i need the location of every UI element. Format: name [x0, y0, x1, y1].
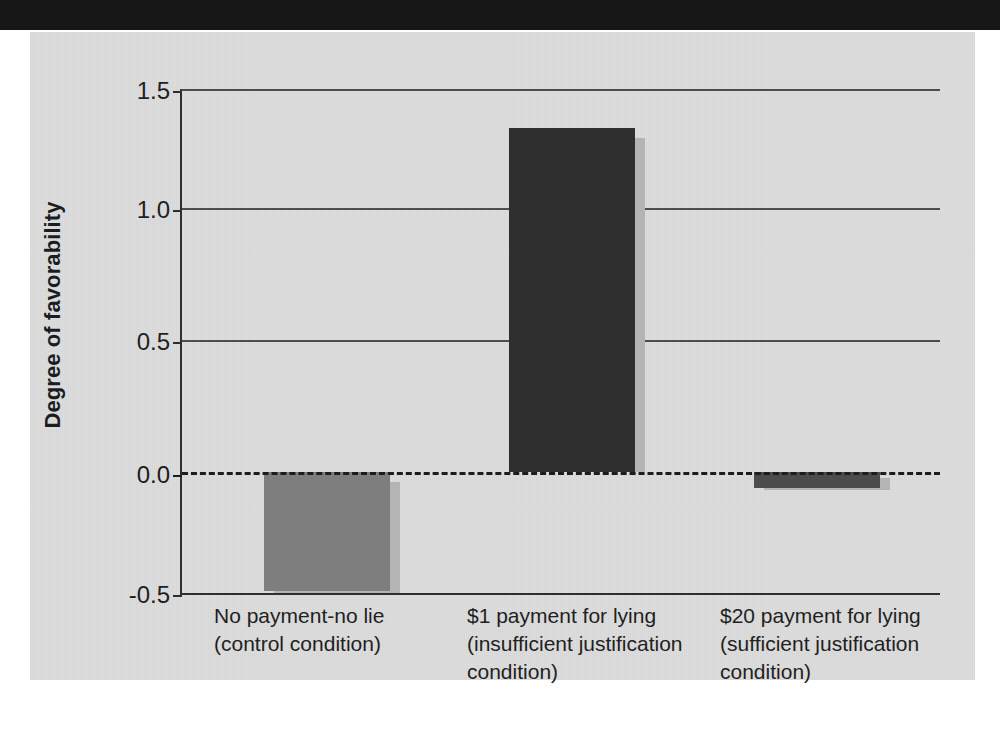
- gridline-zero-dashed: 0.0: [182, 472, 940, 475]
- plot-area: 1.5 1.0 0.5 0.0 -0.5: [180, 89, 940, 595]
- tick-mark-0-0: [173, 475, 182, 477]
- tick-mark-0-5: [173, 342, 182, 344]
- y-tick-label-minus-0-5: -0.5: [129, 581, 170, 609]
- x-label-insufficient: $1 payment for lying (insufficient justi…: [433, 602, 686, 686]
- y-tick-label-0-5: 0.5: [137, 328, 170, 356]
- y-axis-title: Degree of favorability: [40, 150, 66, 480]
- x-label-insufficient-line-3: condition): [467, 658, 686, 686]
- x-label-control: No payment-no lie (control condition): [180, 602, 433, 686]
- tick-mark-1-0: [173, 210, 182, 212]
- gridline-1-5: 1.5: [182, 89, 940, 91]
- y-tick-label-1-5: 1.5: [137, 77, 170, 105]
- x-label-sufficient: $20 payment for lying (sufficient justif…: [686, 602, 939, 686]
- bar-control[interactable]: [264, 472, 390, 591]
- header-black-band: [0, 0, 1000, 30]
- x-label-sufficient-line-2: (sufficient justification: [720, 630, 939, 658]
- y-tick-label-1-0: 1.0: [137, 196, 170, 224]
- bar-insufficient[interactable]: [509, 128, 635, 472]
- x-label-insufficient-line-2: (insufficient justification: [467, 630, 686, 658]
- x-label-control-line-1: No payment-no lie: [214, 602, 433, 630]
- tick-mark-minus-0-5: [173, 595, 182, 597]
- x-label-sufficient-line-1: $20 payment for lying: [720, 602, 939, 630]
- x-label-control-line-2: (control condition): [214, 630, 433, 658]
- tick-mark-1-5: [173, 91, 182, 93]
- x-axis-labels: No payment-no lie (control condition) $1…: [180, 602, 970, 686]
- y-tick-label-0-0: 0.0: [137, 461, 170, 489]
- x-label-sufficient-line-3: condition): [720, 658, 939, 686]
- x-label-insufficient-line-1: $1 payment for lying: [467, 602, 686, 630]
- figure-panel: Degree of favorability 1.5 1.0 0.5 0.0 -…: [30, 32, 975, 680]
